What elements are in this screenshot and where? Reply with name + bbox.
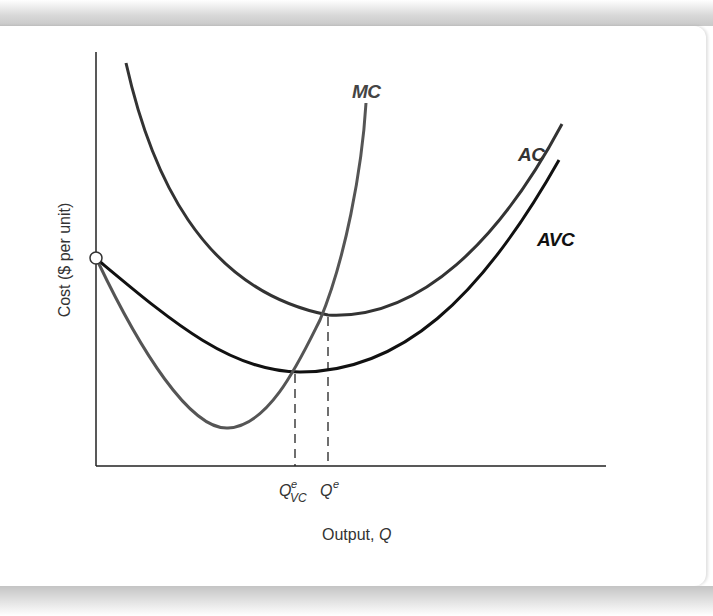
mc-curve [98,103,366,428]
x-axis-label-var: Q [379,526,391,543]
avc-label: AVC [536,229,575,250]
mc-label: MC [352,81,381,102]
svg-text:Q: Q [320,482,332,499]
ac-label: AC [517,144,545,165]
x-axis-label: Output, Q [322,526,391,543]
cost-curves-chart: MC AC AVC Cost ($ per unit) Q e VC Q e O… [0,0,713,616]
tick-label-qvc: Q e VC [279,478,307,505]
y-axis-label: Cost ($ per unit) [56,203,73,318]
svg-text:VC: VC [290,491,307,505]
svg-text:e: e [333,478,339,490]
tick-label-qe: Q e [320,478,339,499]
svg-text:e: e [291,478,297,490]
intercept-open-circle [90,252,102,264]
ac-curve [126,63,562,315]
x-axis-label-main: Output, [322,526,379,543]
